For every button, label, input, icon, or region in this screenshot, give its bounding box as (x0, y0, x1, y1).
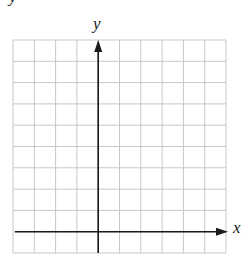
coordinate-plane: y y x (0, 0, 247, 257)
y-axis-label: y (93, 15, 101, 32)
x-axis-label: x (233, 219, 241, 236)
grid (0, 0, 247, 257)
y-axis-arrow-icon (94, 40, 102, 52)
